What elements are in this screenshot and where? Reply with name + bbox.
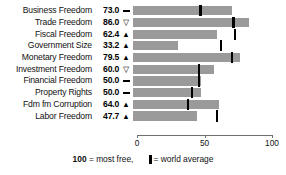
- value-bar: [133, 111, 197, 120]
- legend-world-average-text: = world average: [154, 154, 214, 164]
- chart-row: Monetary Freedom79.5: [0, 52, 286, 64]
- value-bar: [133, 65, 214, 74]
- world-average-tick: [198, 64, 200, 75]
- chart-row: Government Size33.2: [0, 40, 286, 52]
- row-label: Property Rights: [0, 88, 92, 97]
- row-plot: [133, 5, 286, 17]
- legend-most-free-text: = most free,: [89, 154, 133, 164]
- trend-up-icon: [119, 53, 133, 62]
- trend-down-icon: [119, 18, 133, 27]
- row-plot: [133, 28, 286, 40]
- row-value: 73.0: [92, 6, 119, 15]
- row-label: Government Size: [0, 41, 92, 50]
- row-value: 50.0: [92, 76, 119, 85]
- world-average-tick: [234, 29, 236, 40]
- legend-max-value: 100: [73, 154, 87, 164]
- world-average-tick: [191, 87, 193, 98]
- world-average-tick: [232, 17, 234, 28]
- freedom-index-chart: Business Freedom73.0Trade Freedom86.0Fis…: [0, 0, 286, 175]
- chart-row: Business Freedom73.0: [0, 5, 286, 17]
- trend-flat-icon: [119, 76, 133, 85]
- chart-row: Property Rights50.0: [0, 87, 286, 99]
- row-value: 86.0: [92, 18, 119, 27]
- row-label: Financial Freedom: [0, 76, 92, 85]
- row-value: 50.0: [92, 88, 119, 97]
- row-label: Business Freedom: [0, 6, 92, 15]
- row-plot: [133, 110, 286, 122]
- chart-legend: 100 = most free, = world average: [0, 154, 286, 164]
- world-average-tick: [231, 52, 233, 63]
- row-plot: [133, 99, 286, 111]
- row-label: Trade Freedom: [0, 18, 92, 27]
- trend-up-icon: [119, 41, 133, 50]
- axis-tick-label: 50: [200, 139, 209, 148]
- row-value: 60.0: [92, 65, 119, 74]
- row-plot: [133, 17, 286, 29]
- axis-tick-label: 100: [265, 139, 279, 148]
- chart-row: Investment Freedom60.0: [0, 63, 286, 75]
- row-plot: [133, 63, 286, 75]
- world-average-tick: [199, 5, 201, 16]
- row-plot: [133, 87, 286, 99]
- trend-down-icon: [119, 65, 133, 74]
- trend-up-icon: [119, 112, 133, 121]
- value-bar: [133, 6, 232, 15]
- row-label: Monetary Freedom: [0, 53, 92, 62]
- row-label: Fiscal Freedom: [0, 30, 92, 39]
- value-bar: [133, 76, 201, 85]
- chart-rows: Business Freedom73.0Trade Freedom86.0Fis…: [0, 5, 286, 122]
- axis-tick-label: 0: [135, 139, 140, 148]
- x-axis: 050100: [137, 135, 272, 136]
- world-average-tick: [187, 99, 189, 110]
- row-value: 47.7: [92, 112, 119, 121]
- chart-row: Financial Freedom50.0: [0, 75, 286, 87]
- row-value: 64.0: [92, 100, 119, 109]
- trend-flat-icon: [119, 88, 133, 97]
- chart-row: Labor Freedom47.7: [0, 110, 286, 122]
- chart-row: Fiscal Freedom62.4: [0, 28, 286, 40]
- trend-up-icon: [119, 100, 133, 109]
- row-label: Fdm fm Corruption: [0, 100, 92, 109]
- row-value: 62.4: [92, 30, 119, 39]
- value-bar: [133, 41, 178, 50]
- row-label: Investment Freedom: [0, 65, 92, 74]
- trend-flat-icon: [119, 6, 133, 15]
- row-plot: [133, 40, 286, 52]
- value-bar: [133, 53, 240, 62]
- trend-up-icon: [119, 30, 133, 39]
- value-bar: [133, 100, 219, 109]
- chart-row: Trade Freedom86.0: [0, 17, 286, 29]
- row-value: 79.5: [92, 53, 119, 62]
- row-label: Labor Freedom: [0, 112, 92, 121]
- world-average-tick: [216, 110, 218, 121]
- world-average-tick: [198, 75, 200, 86]
- world-average-marker-icon: [149, 155, 151, 164]
- value-bar: [133, 30, 217, 39]
- row-plot: [133, 52, 286, 64]
- world-average-tick: [220, 40, 222, 51]
- row-plot: [133, 75, 286, 87]
- row-value: 33.2: [92, 41, 119, 50]
- chart-row: Fdm fm Corruption64.0: [0, 99, 286, 111]
